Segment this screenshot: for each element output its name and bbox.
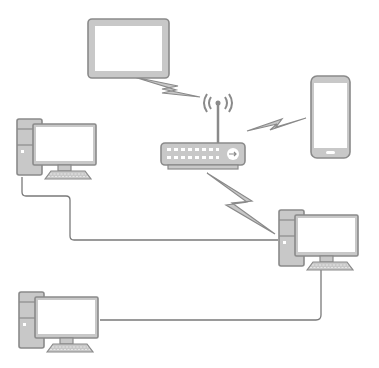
wireless-signal-tablet-router — [134, 77, 200, 97]
wireless-signal-phone-router — [247, 118, 306, 131]
smartphone-icon — [311, 76, 350, 158]
router-icon — [161, 94, 245, 169]
tablet-icon — [88, 19, 169, 78]
desktop-computer-1 — [17, 119, 96, 179]
desktop-computer-icon — [17, 119, 96, 179]
desktop-computer-icon — [19, 292, 98, 352]
desktop-computer-3 — [19, 292, 98, 352]
network-diagram: Home network diagram — [0, 0, 379, 368]
wireless-signal-router-desktop2 — [207, 173, 275, 234]
desktop-computer-2 — [279, 210, 358, 270]
desktop-computer-icon — [279, 210, 358, 270]
cable-desktop3-to-desktop2 — [100, 265, 321, 320]
